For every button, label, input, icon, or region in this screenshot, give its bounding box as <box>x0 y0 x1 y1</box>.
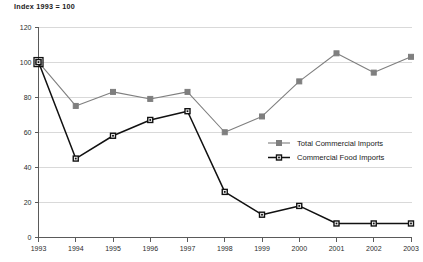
series-line <box>39 53 412 132</box>
data-point-marker <box>148 96 153 101</box>
data-point-marker <box>73 103 78 108</box>
x-axis-labels: 1993199419951996199719981999200020012002… <box>31 245 419 252</box>
legend-item-label: Total Commercial Imports <box>297 139 383 148</box>
chart-plot-area: 020406080100120 199319941995199619971998… <box>0 0 423 262</box>
data-point-marker <box>185 89 190 94</box>
x-tick-label: 1999 <box>254 245 270 252</box>
x-tick-label: 1994 <box>68 245 84 252</box>
data-point-marker-center <box>38 61 40 63</box>
gridlines <box>39 27 413 202</box>
y-axis-labels: 020406080100120 <box>20 24 32 242</box>
chart-container: Index 1993 = 100 020406080100120 1993199… <box>0 0 423 262</box>
data-point-marker-center <box>187 110 189 112</box>
x-tick-label: 1998 <box>217 245 233 252</box>
x-tick-label: 1996 <box>143 245 159 252</box>
y-tick-label: 40 <box>24 164 32 171</box>
data-point-marker-center <box>298 205 300 207</box>
x-tick-label: 1993 <box>31 245 47 252</box>
x-tick-label: 1997 <box>180 245 196 252</box>
legend-item-1[interactable]: Total Commercial Imports <box>268 139 383 148</box>
data-point-marker-center <box>224 191 226 193</box>
data-point-marker-center <box>373 223 375 225</box>
x-tick-label: 2001 <box>329 245 345 252</box>
y-tick-label: 20 <box>24 199 32 206</box>
data-point-marker <box>409 54 414 59</box>
x-tick-label: 1995 <box>105 245 121 252</box>
data-point-marker-center <box>261 214 263 216</box>
x-tick-label: 2000 <box>292 245 308 252</box>
data-point-marker-center <box>336 223 338 225</box>
legend-item-label: Commercial Food Imports <box>297 153 385 162</box>
data-point-marker <box>222 130 227 135</box>
data-point-marker-center <box>112 135 114 137</box>
data-point-marker <box>371 70 376 75</box>
y-tick-label: 100 <box>20 59 32 66</box>
series-1 <box>36 51 414 135</box>
x-tick-label: 2002 <box>366 245 382 252</box>
x-tick-label: 2003 <box>403 245 419 252</box>
data-point-marker <box>334 51 339 56</box>
data-point-marker <box>260 114 265 119</box>
data-point-marker-center <box>75 158 77 160</box>
chart-legend: Total Commercial ImportsCommercial Food … <box>268 139 385 163</box>
y-tick-label: 80 <box>24 94 32 101</box>
data-point-marker-center <box>149 119 151 121</box>
y-tick-label: 60 <box>24 129 32 136</box>
y-tick-label: 120 <box>20 24 32 31</box>
legend-item-2[interactable]: Commercial Food Imports <box>268 153 385 162</box>
data-point-marker-center <box>410 223 412 225</box>
data-point-marker <box>297 79 302 84</box>
legend-marker-icon-center <box>278 157 280 159</box>
y-tick-label: 0 <box>28 234 32 241</box>
data-point-marker <box>111 89 116 94</box>
legend-marker-icon <box>277 141 282 146</box>
